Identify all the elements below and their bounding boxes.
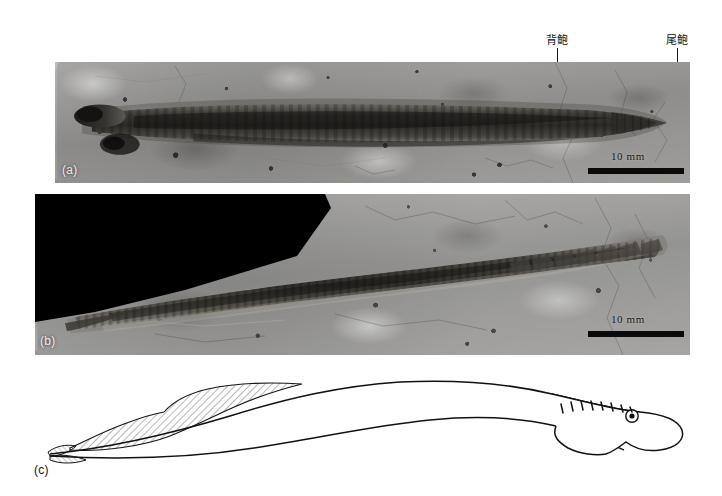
- panel-letter-a: (a): [62, 163, 78, 177]
- annotation-label-dorsal-fin: 背鲍: [546, 31, 569, 47]
- scale-bar-label-a: 10 mm: [611, 150, 645, 162]
- panel-b-photograph: (b) 10 mm: [35, 194, 690, 355]
- panel-letter-c: (c): [34, 463, 49, 477]
- scale-bar-label-b: 10 mm: [611, 313, 645, 325]
- scale-bar-a: [588, 168, 684, 174]
- panel-a-photograph: (a) 10 mm: [55, 62, 690, 183]
- dorsal-fin-hatched: [70, 383, 302, 450]
- panel-letter-b: (b): [40, 334, 56, 348]
- annotation-label-caudal-fin: 尾鲍: [666, 31, 689, 47]
- scale-bar-b: [588, 331, 684, 337]
- fossil-specimen-a: [74, 89, 671, 157]
- figure-root: 背鲍 尾鲍: [0, 0, 722, 496]
- fossil-specimen-b: [61, 233, 677, 339]
- reconstruction-drawing: [40, 368, 700, 478]
- panel-c-line-drawing: [40, 368, 700, 478]
